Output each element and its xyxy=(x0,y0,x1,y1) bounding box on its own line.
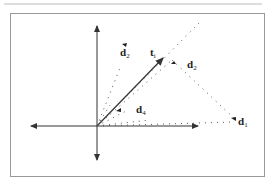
axes xyxy=(31,26,198,160)
d4-head-icon xyxy=(116,108,121,112)
t-vector-arrow xyxy=(97,58,163,126)
vector-space-diagram: d2 ti d2 d1 d4 xyxy=(0,0,272,184)
label-d1: d1 xyxy=(238,115,248,129)
d3-head-icon xyxy=(171,61,176,64)
label-t: ti xyxy=(150,46,156,60)
document-vector-heads xyxy=(116,43,236,121)
d1-head-icon xyxy=(231,117,236,121)
figure-frame xyxy=(11,14,265,177)
label-d4: d4 xyxy=(136,103,146,117)
label-d2: d2 xyxy=(187,58,197,72)
label-d-upper: d2 xyxy=(120,46,130,60)
